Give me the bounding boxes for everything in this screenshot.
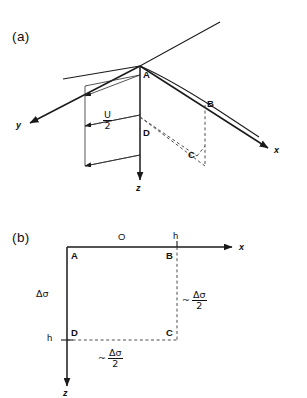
panel-b-annotation-bottom: ~ Δσ 2 — [98, 348, 123, 368]
panel-b-point-C: C — [166, 328, 173, 338]
panel-a-point-C: C — [188, 150, 195, 160]
panel-b-geometry — [61, 241, 232, 386]
panel-b-annotation-right: ~ Δσ 2 — [182, 290, 207, 310]
panel-b-axis-label-z: z — [63, 389, 68, 398]
annotation-right-numerator: Δσ — [192, 290, 207, 301]
velocity-numerator: U — [103, 110, 112, 121]
panel-b-tick-left-label: h — [47, 333, 52, 343]
annotation-bottom-fraction: Δσ 2 — [108, 348, 123, 368]
velocity-fraction: U 2 — [103, 110, 112, 130]
dashed-D-to-bottom — [140, 117, 205, 166]
panel-a-point-D: D — [143, 128, 150, 138]
dashed-C-corner — [197, 146, 205, 156]
velocity-arrow-bottom — [85, 155, 140, 166]
panel-b-origin-label: O — [118, 232, 125, 242]
panel-b-axis-label-x: x — [239, 243, 244, 252]
panel-a-axis-label-x: x — [274, 146, 279, 155]
axis-x-line — [140, 66, 268, 148]
ridge-line — [63, 22, 220, 79]
velocity-arrow-mid — [85, 115, 140, 126]
panel-a-axis-label-z: z — [136, 184, 141, 193]
panel-b-tag: (b) — [12, 231, 30, 245]
plane-top-edge — [85, 75, 140, 86]
panel-a-geometry — [30, 22, 268, 180]
velocity-denominator: 2 — [103, 121, 112, 131]
panel-a-tag: (a) — [12, 30, 30, 44]
annotation-bottom-approx: ~ — [98, 353, 106, 363]
annotation-bottom-denominator: 2 — [108, 359, 123, 369]
annotation-right-approx: ~ — [182, 295, 190, 305]
panel-a-point-B: B — [207, 99, 214, 109]
panel-b-point-A: A — [71, 251, 78, 261]
panel-b-point-D: D — [71, 328, 78, 338]
panel-b-tick-top-label: h — [173, 231, 178, 241]
panel-a-velocity-label: U 2 — [103, 110, 112, 130]
annotation-bottom-numerator: Δσ — [108, 348, 123, 359]
panel-b-point-B: B — [166, 251, 173, 261]
panel-a-point-A: A — [143, 70, 150, 80]
velocity-arrow-top — [85, 75, 140, 96]
annotation-right-denominator: 2 — [192, 301, 207, 311]
panel-a-axis-label-y: y — [16, 121, 21, 130]
panel-b-stress-label: Δσ — [36, 289, 49, 299]
annotation-right-fraction: Δσ 2 — [192, 290, 207, 310]
